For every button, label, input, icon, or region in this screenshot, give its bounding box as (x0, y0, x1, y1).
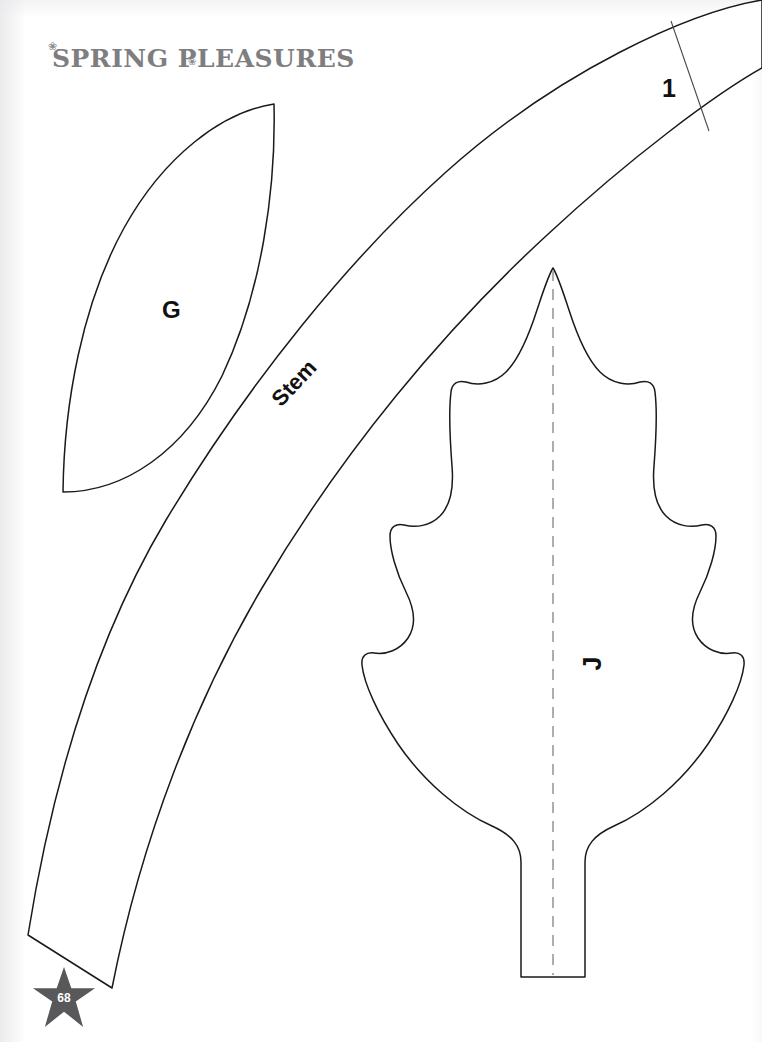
page-number: 68 (33, 992, 95, 1004)
leaf-label-j: J (580, 657, 605, 671)
stem-cut-mark-label: 1 (662, 76, 676, 101)
page-title: ❀ ❀ Spring Pleasures (52, 40, 355, 76)
pattern-artboard (0, 0, 762, 1042)
page-number-star: 68 (33, 967, 95, 1027)
page-title-text: Spring Pleasures (52, 46, 355, 71)
pattern-page: ❀ ❀ Spring Pleasures G J 1 Stem 68 (0, 0, 762, 1042)
leaf-label-g: G (162, 298, 181, 322)
